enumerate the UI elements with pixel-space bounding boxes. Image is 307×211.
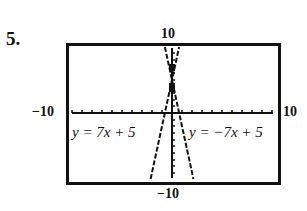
graph-plot xyxy=(0,0,307,211)
equation-label-left: y = 7x + 5 xyxy=(72,124,136,140)
overlap-marker-upper xyxy=(169,64,175,71)
overlap-marker-lower xyxy=(169,83,175,92)
equation-label-right: y = −7x + 5 xyxy=(189,124,263,140)
